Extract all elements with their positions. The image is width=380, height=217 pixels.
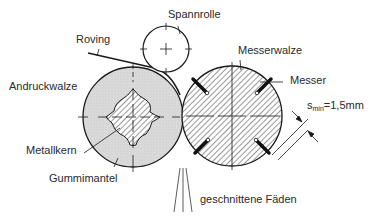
label-messer: Messer	[290, 75, 326, 86]
label-smin: smin=1,5mm	[307, 100, 364, 112]
label-metallkern: Metallkern	[26, 145, 77, 156]
label-gummimantel: Gummimantel	[49, 173, 117, 184]
label-spannrolle: Spannrolle	[168, 9, 221, 20]
smin-subscript: min	[313, 105, 324, 112]
cut-fibers	[174, 168, 192, 212]
label-geschnittene-faeden: geschnittene Fäden	[200, 194, 297, 205]
label-messerwalze: Messerwalze	[238, 45, 302, 56]
messerwalze-roller	[182, 60, 282, 170]
label-andruckwalze: Andruckwalze	[9, 81, 77, 92]
andruckwalze-roller	[78, 64, 190, 172]
label-roving: Roving	[76, 34, 110, 45]
smin-value: =1,5mm	[324, 99, 364, 111]
